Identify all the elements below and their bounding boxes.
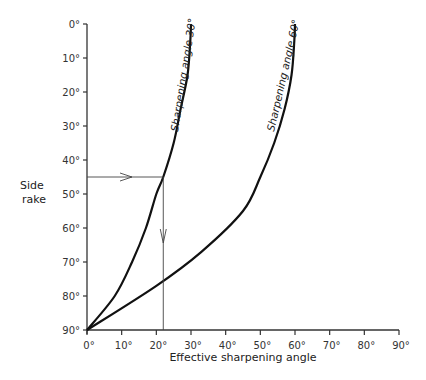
y-tick-label: 30°: [62, 121, 80, 132]
axes: 0°10°20°30°40°50°60°70°80°90°0°10°20°30°…: [62, 19, 410, 351]
y-tick-label: 70°: [62, 257, 80, 268]
y-axis-title-line1: Side: [20, 179, 44, 192]
x-tick-label: 70°: [323, 340, 341, 351]
x-tick-label: 40°: [219, 340, 237, 351]
y-tick-label: 50°: [62, 189, 80, 200]
y-tick-label: 10°: [62, 53, 80, 64]
x-tick-label: 20°: [149, 340, 167, 351]
x-tick-label: 10°: [115, 340, 133, 351]
x-axis-title: Effective sharpening angle: [169, 351, 316, 364]
y-tick-label: 20°: [62, 87, 80, 98]
x-tick-label: 60°: [288, 340, 306, 351]
x-tick-label: 90°: [392, 340, 410, 351]
y-tick-label: 90°: [62, 325, 80, 336]
y-tick-label: 40°: [62, 155, 80, 166]
curve-label-30: Sharpening angle 30°: [168, 17, 198, 132]
chart: 0°10°20°30°40°50°60°70°80°90°0°10°20°30°…: [0, 0, 426, 380]
x-tick-label: 30°: [184, 340, 202, 351]
y-axis-title-line2: rake: [22, 193, 46, 206]
x-tick-label: 50°: [253, 340, 271, 351]
y-tick-label: 80°: [62, 291, 80, 302]
x-tick-label: 80°: [357, 340, 375, 351]
y-tick-label: 60°: [62, 223, 80, 234]
y-tick-label: 0°: [69, 19, 80, 30]
x-tick-label: 0°: [83, 340, 94, 351]
